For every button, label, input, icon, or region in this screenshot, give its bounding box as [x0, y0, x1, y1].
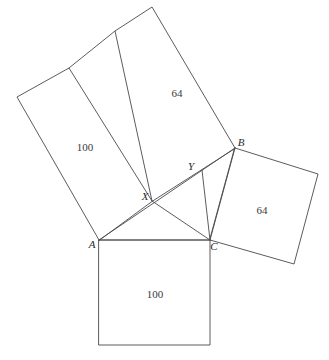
segment-AB	[99, 148, 235, 240]
point-label-C: C	[210, 240, 218, 252]
point-label-Y: Y	[188, 160, 196, 172]
point-label-X: X	[141, 190, 150, 202]
square-face-3	[115, 7, 235, 201]
point-label-B: B	[238, 136, 245, 148]
point-labels: A B C X Y	[88, 136, 245, 252]
square-outline-upper-64	[115, 7, 235, 201]
area-label-upper-100: 100	[77, 141, 94, 153]
point-label-A: A	[88, 238, 96, 250]
area-label-upper-64: 64	[172, 87, 184, 99]
geometry-canvas: 100 64 100 64 A B C X Y	[0, 0, 329, 360]
geometry-figure: 100 64 100 64 A B C X Y	[0, 0, 329, 360]
segment-CY	[202, 170, 210, 240]
square-outlines	[17, 7, 318, 345]
area-labels: 100 64 100 64	[77, 87, 268, 300]
area-label-bottom-100: 100	[147, 288, 164, 300]
area-label-right-64: 64	[257, 204, 269, 216]
segment-CX	[152, 201, 210, 240]
triangle-and-cevians	[69, 31, 235, 240]
segment-divider-upper	[69, 31, 115, 68]
square-outline-upper-100	[17, 68, 152, 240]
